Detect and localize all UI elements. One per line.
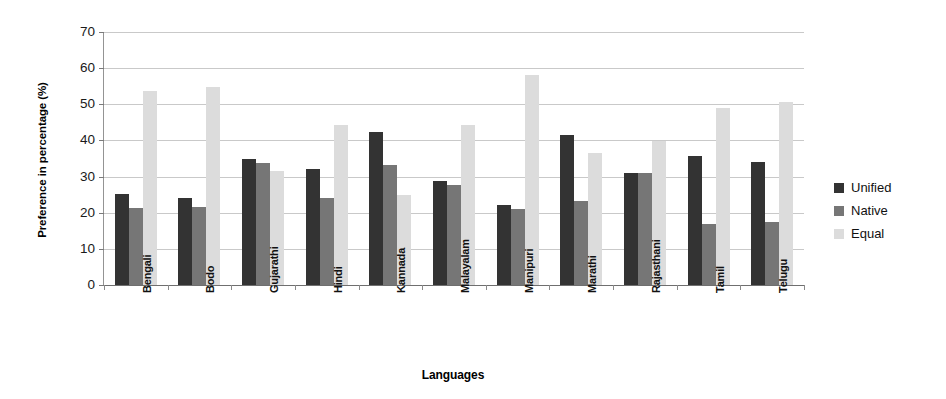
bar-group xyxy=(613,32,677,285)
x-axis-tick-label: Manipuri xyxy=(523,249,535,293)
x-axis-tick-label: Gujarathi xyxy=(268,247,280,294)
bar xyxy=(206,87,220,285)
x-axis-tick xyxy=(677,285,678,290)
bar-chart: Preference in percentage (%) 01020304050… xyxy=(0,0,946,399)
bar-group xyxy=(422,32,486,285)
legend-item[interactable]: Native xyxy=(834,199,934,222)
y-axis-tick-label: 40 xyxy=(80,134,95,148)
x-axis-tick xyxy=(804,285,805,290)
x-axis-tick xyxy=(231,285,232,290)
legend-item-label: Unified xyxy=(851,181,891,194)
bar-group xyxy=(740,32,804,285)
bar xyxy=(560,135,574,285)
bar xyxy=(624,173,638,285)
x-axis-tick-label: Bengali xyxy=(141,255,153,293)
bar xyxy=(497,205,511,285)
bar-group xyxy=(104,32,168,285)
bar-group xyxy=(168,32,232,285)
x-axis-tick-label: Hindi xyxy=(332,267,344,294)
x-axis-tick xyxy=(486,285,487,290)
x-axis-tick xyxy=(740,285,741,290)
x-axis-tick xyxy=(168,285,169,290)
x-axis-tick-label: Malayalam xyxy=(459,239,471,293)
x-axis-tick xyxy=(549,285,550,290)
x-axis-tick-label: Marathi xyxy=(586,255,598,293)
x-axis-tick-label: Rajasthani xyxy=(650,239,662,293)
bar xyxy=(688,156,702,285)
bar xyxy=(433,181,447,285)
x-axis-tick xyxy=(359,285,360,290)
x-axis-tick xyxy=(422,285,423,290)
bar-group xyxy=(677,32,741,285)
legend-item[interactable]: Unified xyxy=(834,176,934,199)
bar-group xyxy=(295,32,359,285)
bar xyxy=(751,162,765,285)
legend-item[interactable]: Equal xyxy=(834,222,934,245)
legend-item-label: Equal xyxy=(851,227,884,240)
y-axis-tick-label: 10 xyxy=(80,242,95,256)
x-axis-title: Languages xyxy=(103,368,803,382)
bar-group xyxy=(486,32,550,285)
bar-group xyxy=(549,32,613,285)
bar xyxy=(115,194,129,285)
y-axis-tick-label: 30 xyxy=(80,170,95,184)
bar xyxy=(334,125,348,285)
legend-swatch-icon xyxy=(834,229,844,239)
bar xyxy=(369,132,383,285)
legend: UnifiedNativeEqual xyxy=(834,176,934,245)
legend-swatch-icon xyxy=(834,206,844,216)
bar xyxy=(779,102,793,285)
plot-area: 010203040506070 BengaliBodoGujarathiHind… xyxy=(103,32,804,286)
bar xyxy=(716,108,730,285)
x-axis-tick xyxy=(104,285,105,290)
y-axis-tick-label: 50 xyxy=(80,98,95,112)
bar xyxy=(178,198,192,285)
x-axis-tick xyxy=(613,285,614,290)
bar xyxy=(242,159,256,285)
x-axis-tick-label: Telugu xyxy=(777,259,789,293)
legend-swatch-icon xyxy=(834,183,844,193)
x-axis-tick xyxy=(295,285,296,290)
bar xyxy=(306,169,320,285)
bar-group xyxy=(359,32,423,285)
y-axis-tick-label: 20 xyxy=(80,206,95,220)
bars-layer xyxy=(104,32,804,285)
y-axis-tick-label: 0 xyxy=(87,278,95,292)
y-axis-tick-label: 60 xyxy=(80,61,95,75)
x-axis-tick-label: Kannada xyxy=(395,248,407,293)
x-axis-tick-label: Tamil xyxy=(714,266,726,293)
x-axis-tick-label: Bodo xyxy=(204,266,216,293)
y-axis-tick-label: 70 xyxy=(80,25,95,39)
legend-item-label: Native xyxy=(851,204,888,217)
y-axis-title: Preference in percentage (%) xyxy=(33,30,51,290)
bar-group xyxy=(231,32,295,285)
